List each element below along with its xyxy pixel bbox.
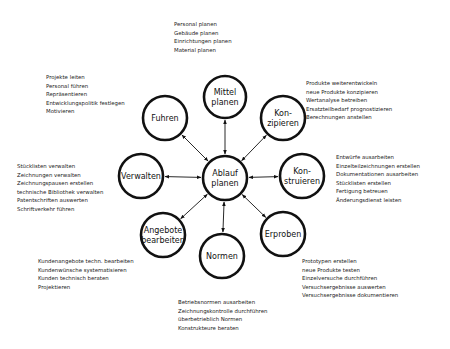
- double-arrow-konstruieren: [249, 177, 278, 178]
- node-label: planen: [211, 179, 238, 188]
- node-label: zipieren: [267, 119, 299, 128]
- task-item: Schriftverkehr führen: [17, 205, 103, 214]
- task-item: Kundenwünsche systematisieren: [38, 266, 134, 275]
- node-mittel: Mittelplanen: [204, 76, 246, 118]
- task-item: technische Bibliothek verwalten: [17, 188, 103, 197]
- node-konstruieren: Kon-struieren: [280, 154, 324, 198]
- node-label: Ablauf: [212, 169, 238, 178]
- task-item: Einzelversuche durchführen: [302, 274, 398, 283]
- task-list-erproben: Prototypen erstellenneue Produkte testen…: [302, 257, 398, 300]
- double-arrow-verwalten: [165, 177, 201, 178]
- node-normen: Normen: [200, 234, 244, 278]
- task-item: Konstrukteure beraten: [178, 324, 267, 333]
- task-list-angebote: Kundenangebote techn. bearbeitenKundenwü…: [38, 257, 134, 291]
- double-arrow-normen: [223, 202, 224, 232]
- node-label: bearbeiten: [141, 236, 185, 245]
- node-label: Kon-: [293, 167, 311, 176]
- task-item: überbetrieblich Normen: [178, 315, 267, 324]
- task-list-normen: Betriebsnormen ausarbeitenZeichnungskont…: [178, 298, 267, 332]
- task-list-konstruieren: Entwürfe ausarbeitenEinzelteilzeichnunge…: [336, 153, 420, 205]
- node-fuhren: Fuhren: [143, 96, 187, 140]
- task-item: Dokumentationen ausarbeiten: [336, 170, 420, 179]
- task-item: Einrichtungen planen: [174, 37, 232, 46]
- double-arrow-erproben: [242, 195, 265, 218]
- task-item: Entwürfe ausarbeiten: [336, 153, 420, 162]
- node-circles: MittelplanenKon-zipierenKon-struierenErp…: [119, 76, 324, 278]
- task-item: neue Produkte konzipieren: [306, 88, 392, 97]
- task-item: Stücklisten erstellen: [336, 179, 420, 188]
- task-item: Einzelteilzeichnungen erstellen: [336, 162, 420, 171]
- double-arrow-angebote: [181, 194, 208, 219]
- node-label: Mittel: [214, 88, 237, 97]
- node-label: Kon-: [274, 109, 292, 118]
- task-item: Zeichnungen verwalten: [17, 171, 103, 180]
- node-konzipieren: Kon-zipieren: [261, 96, 305, 140]
- task-item: Projekte leiten: [46, 73, 125, 82]
- double-arrow-fuhren: [182, 135, 208, 161]
- task-item: Kundenangebote techn. bearbeiten: [38, 257, 134, 266]
- node-label: Normen: [206, 252, 238, 261]
- task-item: Kunden technisch beraten: [38, 274, 134, 283]
- task-item: Motivieren: [46, 107, 125, 116]
- task-list-konzipieren: Produkte weiterentwickelnneue Produkte k…: [306, 79, 392, 122]
- task-item: Versuchsergebnisse auswerten: [302, 283, 398, 292]
- task-item: Ersatzteilbedarf prognostizieren: [306, 105, 392, 114]
- task-item: Zeichnungspausen erstellen: [17, 179, 103, 188]
- node-center-ablauf-planen: Ablaufplanen: [203, 156, 247, 200]
- task-item: Patentschriften auswerten: [17, 196, 103, 205]
- node-label: Angebote: [144, 226, 183, 235]
- task-item: Fertigung betreuen: [336, 187, 420, 196]
- task-item: Entwicklungspolitik festlegen: [46, 99, 125, 108]
- task-item: Stücklisten verwalten: [17, 162, 103, 171]
- node-verwalten: Verwalten: [119, 154, 163, 198]
- task-item: neue Produkte testen: [302, 266, 398, 275]
- task-item: Wertanalyse betreiben: [306, 96, 392, 105]
- node-label: struieren: [284, 177, 320, 186]
- node-label: planen: [211, 98, 238, 107]
- task-item: Zeichnungskontrolle durchführen: [178, 307, 267, 316]
- node-label: Fuhren: [151, 114, 178, 123]
- task-list-verwalten: Stücklisten verwaltenZeichnungen verwalt…: [17, 162, 103, 214]
- task-item: Produkte weiterentwickeln: [306, 79, 392, 88]
- task-list-mittel: Personal planenGebäude planenEinrichtung…: [174, 20, 232, 54]
- task-item: Prototypen erstellen: [302, 257, 398, 266]
- task-item: Änderungsdienst leisten: [336, 196, 420, 205]
- task-item: Projektieren: [38, 283, 134, 292]
- task-item: Betriebsnormen ausarbeiten: [178, 298, 267, 307]
- task-item: Berechnungen anstellen: [306, 113, 392, 122]
- task-item: Repräsentieren: [46, 90, 125, 99]
- double-arrow-konzipieren: [242, 135, 267, 160]
- node-label: Erproben: [265, 230, 302, 239]
- node-label: Verwalten: [121, 172, 161, 181]
- task-item: Material planen: [174, 46, 232, 55]
- node-angebote: Angebotebearbeiten: [141, 213, 185, 257]
- node-erproben: Erproben: [261, 212, 305, 256]
- task-list-fuhren: Projekte leitenPersonal führenRepräsenti…: [46, 73, 125, 116]
- task-item: Personal führen: [46, 82, 125, 91]
- task-item: Gebäude planen: [174, 29, 232, 38]
- task-item: Versuchsergebnisse dokumentieren: [302, 291, 398, 300]
- task-item: Personal planen: [174, 20, 232, 29]
